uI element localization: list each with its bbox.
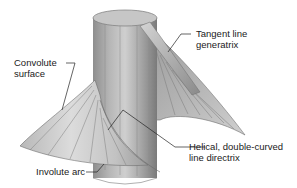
label-tangent-line-generatrix: Tangent line generatrix — [196, 28, 247, 50]
label-line: surface — [14, 68, 57, 79]
label-line: Tangent line — [196, 28, 247, 39]
convolute-surface-diagram: Convolute surface Tangent line generatri… — [0, 0, 297, 188]
label-line: Involute arc — [36, 166, 85, 177]
label-line: Helical, double-curved — [189, 141, 283, 152]
label-line: generatrix — [196, 39, 247, 50]
label-involute-arc: Involute arc — [36, 166, 85, 177]
label-line: Convolute — [14, 57, 57, 68]
label-convolute-surface: Convolute surface — [14, 57, 57, 79]
label-helical-directrix: Helical, double-curved line directrix — [189, 141, 283, 163]
label-line: line directrix — [189, 152, 283, 163]
